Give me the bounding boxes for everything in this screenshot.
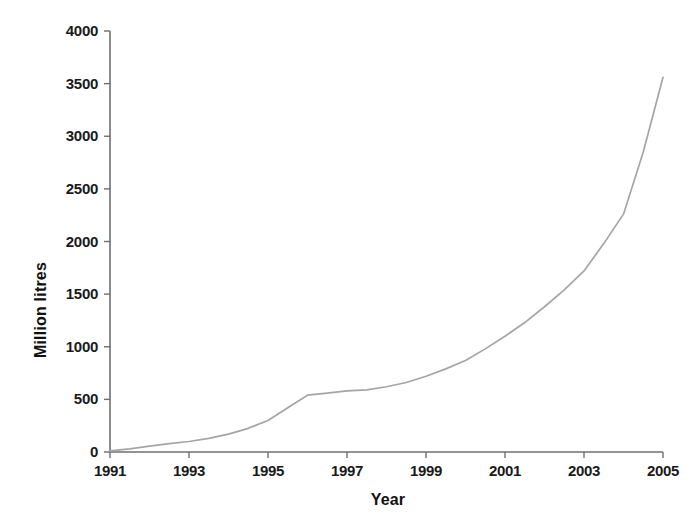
x-tick-label: 1997 (331, 462, 363, 479)
y-tick-label: 4000 (66, 22, 98, 39)
y-tick-label: 3500 (66, 75, 98, 92)
y-tick-label: 2500 (66, 180, 98, 197)
x-axis-title: Year (371, 491, 406, 508)
y-tick-label: 1000 (66, 338, 98, 355)
x-tick-label: 1995 (252, 462, 284, 479)
x-tick-label: 2001 (489, 462, 521, 479)
x-axis-group: 19911993199519971999200120032005 (94, 452, 679, 479)
y-tick-label: 500 (74, 390, 98, 407)
y-axis-ticks (104, 31, 110, 452)
x-tick-label: 1993 (173, 462, 205, 479)
x-tick-label: 2003 (568, 462, 600, 479)
y-axis-title: Million litres (32, 262, 49, 358)
chart-figure: 05001000150020002500300035004000 1991199… (0, 0, 697, 523)
plot-area (110, 77, 663, 451)
y-axis-tick-labels: 05001000150020002500300035004000 (66, 22, 98, 460)
data-series-line (110, 77, 663, 451)
y-tick-label: 2000 (66, 233, 98, 250)
y-axis-group: 05001000150020002500300035004000 (66, 22, 110, 460)
x-tick-label: 2005 (647, 462, 679, 479)
line-chart-canvas: 05001000150020002500300035004000 1991199… (0, 0, 697, 523)
y-tick-label: 1500 (66, 285, 98, 302)
y-tick-label: 3000 (66, 127, 98, 144)
x-axis-tick-labels: 19911993199519971999200120032005 (94, 462, 679, 479)
x-tick-label: 1999 (410, 462, 442, 479)
x-tick-label: 1991 (94, 462, 126, 479)
x-axis-ticks (110, 452, 663, 458)
y-tick-label: 0 (90, 443, 98, 460)
